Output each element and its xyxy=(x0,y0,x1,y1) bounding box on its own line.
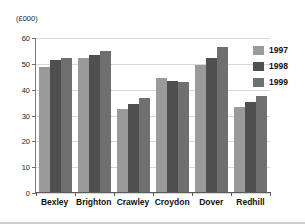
bar xyxy=(100,51,111,192)
x-axis-tick-mark xyxy=(270,192,271,196)
legend-swatch-icon xyxy=(253,46,264,55)
x-axis-labels: BexleyBrightonCrawleyCroydonDoverRedhill xyxy=(35,197,270,207)
bar-groups xyxy=(36,38,270,192)
legend-item-1997[interactable]: 1997 xyxy=(253,45,288,55)
x-axis-category-label: Dover xyxy=(192,197,231,207)
page-edge-strip xyxy=(0,222,305,224)
bar xyxy=(61,58,72,192)
bar-group xyxy=(114,38,153,192)
bar xyxy=(50,60,61,192)
x-axis-tick-mark xyxy=(75,192,76,196)
bar-group xyxy=(75,38,114,192)
x-axis-category-label: Bexley xyxy=(35,197,74,207)
bar xyxy=(256,96,267,192)
x-axis-tick-mark xyxy=(114,192,115,196)
legend-swatch-icon xyxy=(253,78,264,87)
chart-legend: 199719981999 xyxy=(253,45,288,87)
bar xyxy=(178,82,189,192)
bar xyxy=(167,81,178,192)
x-axis-category-label: Crawley xyxy=(113,197,152,207)
bar xyxy=(139,98,150,192)
bar xyxy=(78,58,89,192)
bar xyxy=(128,104,139,192)
y-axis-tick-label: 50 xyxy=(22,59,30,68)
bar-group xyxy=(192,38,231,192)
bar xyxy=(206,58,217,192)
bar xyxy=(117,109,128,192)
y-axis-unit-label: (£000) xyxy=(16,14,38,23)
bar xyxy=(39,67,50,192)
y-axis-tick-label: 60 xyxy=(22,34,30,43)
x-axis-category-label: Redhill xyxy=(231,197,270,207)
y-axis-tick-label: 0 xyxy=(26,189,30,198)
x-axis-tick-mark xyxy=(231,192,232,196)
legend-swatch-icon xyxy=(253,62,264,71)
x-axis-tick-mark xyxy=(192,192,193,196)
bar xyxy=(195,65,206,192)
bar-group xyxy=(36,38,75,192)
bar xyxy=(234,107,245,192)
bar xyxy=(245,102,256,192)
y-axis-tick-label: 40 xyxy=(22,85,30,94)
bar-chart: (£000) 0102030405060 BexleyBrightonCrawl… xyxy=(0,0,305,224)
x-axis-tick-mark xyxy=(153,192,154,196)
x-axis-category-label: Brighton xyxy=(74,197,113,207)
legend-label: 1997 xyxy=(269,45,288,55)
bar xyxy=(89,55,100,192)
legend-label: 1999 xyxy=(269,77,288,87)
plot-area: 0102030405060 xyxy=(35,38,270,193)
y-axis-tick-label: 20 xyxy=(22,137,30,146)
x-axis-tick-mark xyxy=(36,192,37,196)
bar-group xyxy=(153,38,192,192)
y-axis-tick-label: 30 xyxy=(22,111,30,120)
legend-item-1999[interactable]: 1999 xyxy=(253,77,288,87)
bar xyxy=(156,78,167,192)
legend-label: 1998 xyxy=(269,61,288,71)
y-axis-tick-label: 10 xyxy=(22,163,30,172)
legend-item-1998[interactable]: 1998 xyxy=(253,61,288,71)
bar xyxy=(217,47,228,192)
x-axis-category-label: Croydon xyxy=(153,197,192,207)
